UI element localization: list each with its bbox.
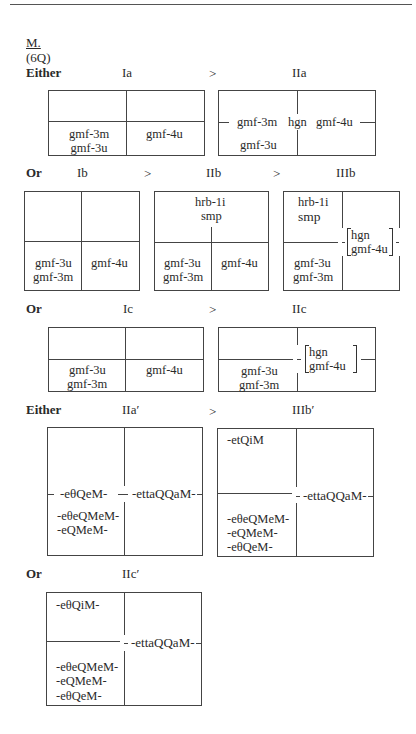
cell-text: -ettaQQaM-	[131, 636, 195, 650]
dash	[396, 242, 399, 243]
cell-text: gmf-3u	[241, 364, 278, 378]
arrow-gt: >	[209, 303, 216, 317]
cell-text: -eθQeM-	[60, 487, 107, 501]
cell-text: hgn	[305, 345, 357, 359]
cell-text: gmf-4u	[305, 359, 357, 373]
arrow-gt: >	[144, 167, 151, 181]
cell-text: gmf-4u	[91, 256, 128, 270]
dash	[219, 122, 229, 123]
cell-text: -eQMeM-	[57, 523, 108, 537]
cell-text: hrb-1i	[298, 195, 329, 209]
stage-label: Ib	[77, 166, 88, 180]
arrow-gt: >	[273, 167, 280, 181]
section-note: (6Q)	[26, 51, 51, 65]
cell-text: gmf-3m	[33, 270, 73, 284]
diagram-box-IIb: hrb-1i smp gmf-3u gmf-3m gmf-4u	[154, 191, 269, 291]
stage-label: IIa′	[122, 403, 139, 417]
cell-text: gmf-3u	[69, 363, 106, 377]
top-rule	[10, 4, 412, 5]
cell-text: -ettaQQaM-	[303, 489, 367, 503]
cell-text: -eQMeM-	[56, 674, 107, 688]
divider-horizontal	[25, 241, 139, 242]
cell-text: gmf-4u	[316, 115, 353, 129]
divider-vertical	[125, 328, 126, 391]
connector-label: Or	[26, 166, 42, 180]
cell-text: -eθeQMeM-	[227, 512, 289, 526]
cell-text: gmf-3m	[69, 127, 109, 141]
connector-label: Or	[26, 567, 42, 581]
cell-text: gmf-3u	[35, 256, 72, 270]
dash	[197, 494, 202, 495]
cell-text: -eθQeM-	[227, 540, 273, 554]
dash	[196, 643, 201, 644]
bracket-group: hgn gmf-4u	[305, 345, 357, 373]
left-bracket	[347, 228, 351, 256]
cell-text: hgn	[347, 228, 393, 242]
cell-text: -eθQeM-	[56, 689, 102, 703]
stage-label: Ic	[123, 302, 133, 316]
diagram-box-IIIb-prime: -etQiM -ettaQQaM- -eθeQMeM- -eQMeM- -eθQ…	[217, 428, 374, 557]
cell-text: gmf-3u	[164, 256, 201, 270]
arrow-gt: >	[209, 67, 216, 81]
bracket-group: hgn gmf-4u	[347, 228, 393, 256]
left-bracket	[305, 345, 309, 373]
dash	[342, 242, 345, 243]
right-bracket	[389, 228, 393, 256]
cell-text: gmf-3m	[239, 378, 279, 392]
diagram-box-Ia: gmf-3m gmf-3u gmf-4u	[48, 90, 205, 156]
stage-label: IIb	[206, 166, 221, 180]
dash	[368, 496, 373, 497]
connector-label: Either	[26, 66, 61, 80]
cell-text: smp	[298, 210, 321, 224]
cell-text: -eθeQMeM-	[57, 509, 119, 523]
divider-horizontal	[284, 242, 342, 243]
cell-text: smp	[201, 209, 222, 223]
section-letter: M.	[26, 36, 41, 50]
diagram-box-Ic: gmf-3u gmf-3m gmf-4u	[48, 327, 204, 392]
cell-text: gmf-3m	[163, 270, 203, 284]
cell-text: gmf-3u	[240, 138, 277, 152]
divider-horizontal	[218, 493, 296, 494]
cell-text: hgn	[287, 115, 308, 129]
cell-text: -ettaQQaM-	[132, 487, 196, 501]
divider-vertical	[126, 91, 127, 155]
diagram-box-IIa-prime: -eθQeM- -ettaQQaM- -eθeQMeM- -eQMeM-	[47, 427, 203, 556]
diagram-box-Ib: gmf-3u gmf-3m gmf-4u	[24, 191, 140, 291]
stage-label: IIIb	[336, 166, 356, 180]
dash	[360, 122, 375, 123]
cell-text: -eQMeM-	[227, 526, 278, 540]
connector-label: Or	[26, 302, 42, 316]
dash	[297, 359, 301, 360]
stage-label: IIc	[292, 302, 306, 316]
divider-vertical	[211, 227, 212, 290]
stage-label: IIa	[292, 66, 306, 80]
dash	[296, 496, 300, 497]
stage-label: IIIb′	[292, 403, 314, 417]
dash	[48, 494, 54, 495]
connector-label: Either	[26, 403, 61, 417]
cell-text: hrb-1i	[195, 195, 226, 209]
right-bracket	[353, 345, 357, 373]
diagram-box-IIc: gmf-3u gmf-3m hgn gmf-4u	[218, 327, 376, 392]
dash	[361, 359, 375, 360]
diagram-box-IIa: gmf-3m hgn gmf-4u gmf-3u	[218, 90, 376, 156]
divider-horizontal	[219, 359, 297, 360]
diagram-box-IIc-prime: -eθQiM- -ettaQQaM- -eθeQMeM- -eQMeM- -eθ…	[46, 592, 202, 706]
dash	[118, 494, 128, 495]
cell-text: -eθQiM-	[56, 598, 99, 612]
divider-horizontal	[49, 359, 203, 360]
stage-label: Ia	[122, 66, 132, 80]
arrow-gt: >	[209, 405, 216, 419]
cell-text: gmf-4u	[221, 256, 258, 270]
cell-text: gmf-3u	[69, 141, 109, 155]
divider-horizontal	[47, 641, 125, 642]
cell-text: gmf-4u	[146, 363, 183, 377]
cell-text: gmf-4u	[347, 242, 393, 256]
cell-text: gmf-4u	[146, 127, 183, 141]
stage-label: IIc′	[122, 567, 139, 581]
cell-text: -eθeQMeM-	[56, 660, 118, 674]
cell-text: gmf-3m	[67, 377, 107, 391]
cell-text: gmf-3m	[293, 270, 333, 284]
divider-vertical	[81, 192, 82, 290]
cell-text: gmf-3m	[237, 115, 277, 129]
